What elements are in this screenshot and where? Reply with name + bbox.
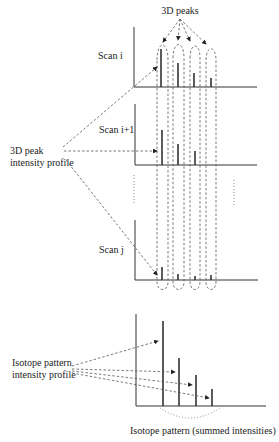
scan-i-label: Scan i xyxy=(98,50,123,61)
scan-i-plot: Scan i xyxy=(98,27,257,87)
isotope-profile-arrows xyxy=(72,341,209,398)
summed-arc xyxy=(160,408,220,418)
peak-profile-loops xyxy=(157,45,216,290)
scan-i-plus-1-label: Scan i+1 xyxy=(99,124,134,135)
peak-profile-label-line2: intensity profile xyxy=(10,157,74,168)
peaks-3d-label: 3D peaks xyxy=(161,5,199,16)
bottom-caption: Isotope pattern (summed intensities) xyxy=(130,425,276,437)
scan-j-plot: Scan j xyxy=(99,220,258,280)
isotope-profile-label-line2: intensity profile xyxy=(12,369,76,380)
isotope-profile-label-line1: Isotope pattern xyxy=(12,357,72,368)
scan-i-plus-1-plot: Scan i+1 xyxy=(99,104,257,165)
peak-profile-label-line1: 3D peak xyxy=(10,145,44,156)
scan-j-label: Scan j xyxy=(99,244,124,255)
isotope-pattern-diagram: 3D peaks Scan i Scan i+1 Scan j xyxy=(0,0,279,442)
peaks-3d-arrows xyxy=(163,19,206,44)
isotope-pattern-plot xyxy=(136,314,266,406)
